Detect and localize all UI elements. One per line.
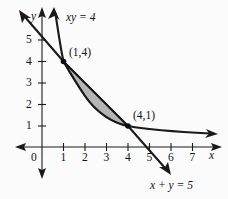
math-figure: 5 4 3 2 1 0 1 2 3 4 5 6 7 x y xy = 4 x +… bbox=[0, 0, 228, 199]
y-axis-label: y bbox=[31, 11, 36, 23]
hyperbola-arrow-top bbox=[48, 7, 60, 20]
x-tick-label-7: 7 bbox=[190, 152, 196, 164]
plot-canvas bbox=[0, 0, 228, 199]
y-tick-label-2: 2 bbox=[26, 99, 32, 111]
x-tick-label-3: 3 bbox=[104, 152, 110, 164]
x-tick-label-5: 5 bbox=[147, 152, 153, 164]
hyperbola-equation-label: xy = 4 bbox=[66, 12, 95, 24]
y-tick-label-5: 5 bbox=[26, 34, 32, 46]
x-tick-label-1: 1 bbox=[61, 152, 67, 164]
point-label-1-4: (1,4) bbox=[69, 47, 91, 59]
y-tick-label-4: 4 bbox=[26, 56, 32, 68]
y-tick-label-3: 3 bbox=[26, 77, 32, 89]
line-equation-label: x + y = 5 bbox=[150, 180, 193, 192]
point-marker-1-4 bbox=[61, 59, 67, 65]
point-label-4-1: (4,1) bbox=[133, 110, 155, 122]
origin-label: 0 bbox=[31, 152, 37, 164]
x-tick-label-2: 2 bbox=[82, 152, 88, 164]
x-tick-label-6: 6 bbox=[168, 152, 174, 164]
x-axis-label: x bbox=[209, 150, 214, 162]
y-tick-label-1: 1 bbox=[26, 120, 32, 132]
x-tick-label-4: 4 bbox=[125, 152, 131, 164]
point-marker-4-1 bbox=[125, 123, 131, 129]
